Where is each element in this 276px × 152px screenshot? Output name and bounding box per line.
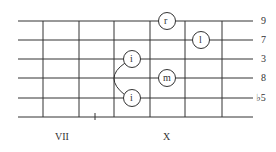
interval-label-8: 8	[261, 73, 266, 83]
fretboard-diagram	[0, 0, 276, 152]
interval-label-7: 7	[261, 35, 266, 45]
finger-label-l: l	[199, 35, 202, 45]
fret-position-vii: VII	[55, 132, 69, 142]
interval-label-9: 9	[261, 16, 266, 26]
finger-label-i-upper: i	[130, 54, 133, 64]
interval-label-flat5: ♭5	[256, 93, 266, 103]
barre-arc	[114, 63, 125, 95]
interval-label-3: 3	[261, 54, 266, 64]
fret-position-x: X	[163, 132, 170, 142]
finger-label-m: m	[163, 73, 171, 83]
finger-label-r: r	[164, 16, 167, 26]
finger-label-i-lower: i	[130, 93, 133, 103]
